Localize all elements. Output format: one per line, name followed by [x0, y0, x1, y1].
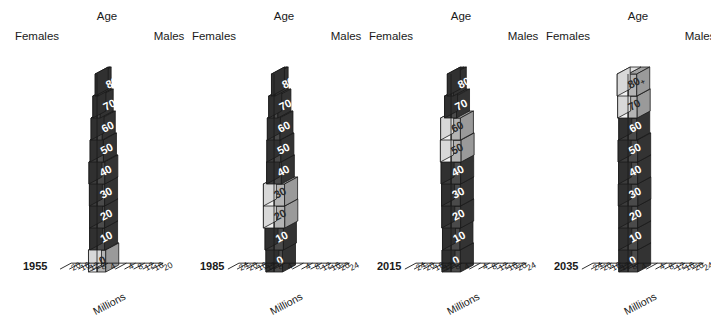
pyramid-panel-1985: 01020304050607080+AgeFemalesMales1985242…: [192, 10, 362, 317]
females-label: Females: [15, 30, 59, 42]
males-label: Males: [685, 30, 711, 42]
males-label: Males: [331, 30, 362, 42]
year-label: 2015: [377, 260, 401, 272]
age-axis-title: Age: [274, 10, 294, 22]
axis-tick-label-male-4: 4: [481, 261, 490, 272]
pyramid-panel-1955: 01020304050607080+AgeFemalesMales1955201…: [15, 10, 185, 317]
males-label: Males: [154, 30, 185, 42]
age-axis-title: Age: [628, 10, 648, 22]
millions-axis-label: Millions: [445, 290, 482, 317]
females-label: Females: [192, 30, 236, 42]
age-band-80+: 80+: [617, 67, 650, 96]
age-axis-title: Age: [97, 10, 117, 22]
axis-tick-label-male-24: 24: [524, 259, 537, 272]
millions-axis-label: Millions: [268, 290, 305, 317]
axis-tick-label-male-4: 4: [127, 261, 136, 272]
axis-tick-label-male-4: 4: [658, 261, 667, 272]
axis-tick-label-male-20: 20: [161, 259, 174, 272]
females-label: Females: [546, 30, 590, 42]
pyramid-panel-2035: 01020304050607080+AgeFemalesMales2035242…: [546, 10, 711, 317]
millions-axis-label: Millions: [91, 290, 128, 317]
axis-tick-label-male-24: 24: [701, 259, 711, 272]
pyramid-panel-2015: 01020304050607080+AgeFemalesMales2015242…: [369, 10, 539, 317]
age-axis-title: Age: [451, 10, 471, 22]
axis-tick-label-male-24: 24: [347, 259, 360, 272]
millions-axis-label: Millions: [622, 290, 659, 317]
axis-tick-label-male-4: 4: [304, 261, 313, 272]
figure-canvas: 01020304050607080+AgeFemalesMales1955201…: [0, 0, 711, 325]
year-label: 2035: [554, 260, 578, 272]
females-label: Females: [369, 30, 413, 42]
population-pyramid-figure: 01020304050607080+AgeFemalesMales1955201…: [0, 0, 711, 325]
males-label: Males: [508, 30, 539, 42]
year-label: 1955: [23, 260, 47, 272]
year-label: 1985: [200, 260, 224, 272]
